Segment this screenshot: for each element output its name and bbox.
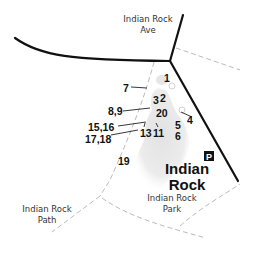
label-indian-rock-park: Indian Rock Park (147, 193, 196, 214)
label-indian-rock-path: Indian Rock Path (22, 204, 71, 225)
marker-8-9[interactable]: 8,9 (108, 105, 123, 117)
marker-19[interactable]: 19 (118, 155, 130, 167)
marker-1[interactable]: 1 (164, 72, 170, 84)
marker-17-18[interactable]: 17,18 (85, 133, 111, 145)
svg-text:Indian Rock: Indian Rock (147, 193, 196, 203)
svg-text:Indian: Indian (165, 160, 209, 177)
marker-4[interactable]: 4 (187, 114, 193, 126)
svg-text:Indian Rock: Indian Rock (123, 14, 172, 24)
marker-11[interactable]: 11 (153, 127, 164, 139)
marker-7[interactable]: 7 (123, 82, 129, 94)
path-upper-right (176, 48, 240, 70)
svg-text:Rock: Rock (169, 176, 206, 193)
marker-6[interactable]: 6 (175, 130, 181, 142)
svg-text:Ave: Ave (140, 25, 156, 35)
path-to-indian-rock-path (52, 196, 100, 232)
svg-text:P: P (206, 152, 212, 162)
parking-icon: P (204, 151, 214, 162)
marker-20[interactable]: 20 (156, 107, 168, 119)
road-west (15, 38, 170, 61)
label-indian-rock-ave: Indian Rock Ave (123, 14, 172, 35)
svg-text:Park: Park (163, 204, 181, 214)
path-park-bottom (102, 198, 206, 238)
map-canvas: Indian Rock Ave Indian Rock Path Indian … (0, 0, 253, 256)
marker-13[interactable]: 13 (140, 127, 152, 139)
marker-15-16[interactable]: 15,16 (88, 121, 114, 133)
svg-text:Path: Path (38, 215, 57, 225)
label-indian-rock: Indian Rock (165, 160, 209, 193)
marker-3[interactable]: 3 (153, 94, 159, 106)
svg-text:Indian Rock: Indian Rock (22, 204, 71, 214)
marker-2[interactable]: 2 (160, 92, 166, 104)
